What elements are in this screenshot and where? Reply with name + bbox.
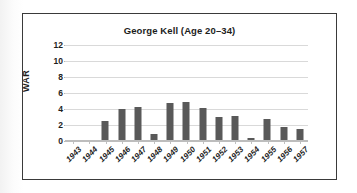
plot-area [65,45,308,141]
bar-slot [178,45,194,141]
x-axis-tick-mark [251,142,252,144]
x-axis-tick-mark [106,142,107,144]
bar-slot [146,45,162,141]
y-axis-tick-label: 12 [54,40,63,50]
bar [183,102,190,141]
x-axis-tick-mark [187,142,188,144]
x-axis-tick-mark [268,142,269,144]
bar-slot [97,45,113,141]
y-axis-tick-label: 8 [58,72,63,82]
y-axis-tick-label: 2 [58,120,63,130]
bar [215,117,222,141]
x-axis-line [65,140,308,141]
bar-slot [162,45,178,141]
chart-screenshot: George Kell (Age 20–34) WAR 024681012 19… [0,0,357,193]
chart-title: George Kell (Age 20–34) [23,25,336,36]
bar-slot [276,45,292,141]
y-axis-tick-labels: 024681012 [33,45,63,141]
bar [264,119,271,141]
y-axis-tick-label: 6 [58,88,63,98]
x-axis-tick-mark [300,142,301,144]
bar-slot [130,45,146,141]
bar-series [65,45,308,141]
bar [280,127,287,141]
bar [118,109,125,141]
x-axis-tick-mark [219,142,220,144]
bar-slot [114,45,130,141]
y-axis-tick-label: 10 [54,56,63,66]
bar [199,108,206,141]
y-axis-tick-label: 4 [58,104,63,114]
chart-frame: George Kell (Age 20–34) WAR 024681012 19… [22,13,337,180]
x-axis-tick-mark [138,142,139,144]
x-axis-tick-mark [89,142,90,144]
x-axis-tick-mark [235,142,236,144]
bar-slot [243,45,259,141]
bar [167,103,174,141]
bar-slot [259,45,275,141]
bar-slot [195,45,211,141]
x-axis-tick-mark [203,142,204,144]
x-axis-tick-mark [154,142,155,144]
bar [102,121,109,141]
bar-slot [292,45,308,141]
x-axis-tick-labels: 1943194419451946194719481949195019511952… [65,142,308,182]
bar [134,107,141,141]
x-axis-tick-mark [122,142,123,144]
x-axis-tick-mark [170,142,171,144]
bar-slot [81,45,97,141]
bar [232,116,239,141]
x-axis-tick-mark [284,142,285,144]
y-axis-title: WAR [21,70,31,92]
x-axis-tick-mark [73,142,74,144]
bar-slot [65,45,81,141]
bar-slot [227,45,243,141]
bar-slot [211,45,227,141]
y-axis-tick-label: 0 [58,136,63,146]
